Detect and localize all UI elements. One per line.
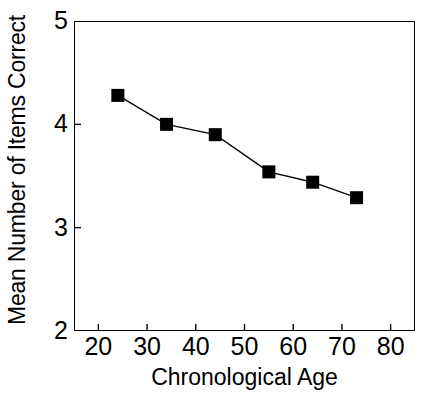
x-tick-label: 30	[125, 334, 169, 359]
chart-figure: Mean Number of Items Correct 2345 203040…	[0, 0, 435, 408]
x-axis-tick-labels: 20304050607080	[0, 0, 435, 408]
x-axis-title: Chronological Age	[74, 364, 415, 391]
x-tick-label: 40	[174, 334, 218, 359]
x-tick-label: 20	[76, 334, 120, 359]
x-tick-label: 80	[369, 334, 413, 359]
x-tick-label: 60	[271, 334, 315, 359]
x-tick-label: 70	[320, 334, 364, 359]
x-tick-label: 50	[223, 334, 267, 359]
